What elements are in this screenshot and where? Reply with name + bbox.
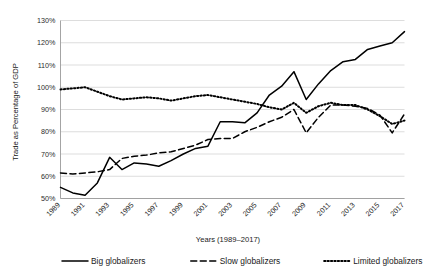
series-line-big-globalizers xyxy=(61,32,405,196)
x-tick-label: 2009 xyxy=(290,201,308,219)
x-tick-label: 2003 xyxy=(216,201,234,219)
y-axis-tick-labels: 50%60%70%80%90%100%110%120%130% xyxy=(37,16,56,203)
x-tick-label: 1995 xyxy=(118,201,136,219)
x-tick-label: 1993 xyxy=(93,201,111,219)
x-tick-label: 1991 xyxy=(69,201,87,219)
y-tick-label: 130% xyxy=(37,16,56,25)
line-chart: 50%60%70%80%90%100%110%120%130% 19891991… xyxy=(0,0,428,278)
legend-label: Limited globalizers xyxy=(353,256,422,266)
y-tick-label: 90% xyxy=(41,105,56,114)
legend-label: Big globalizers xyxy=(91,256,145,266)
gridlines xyxy=(61,21,405,199)
x-tick-label: 2005 xyxy=(241,201,259,219)
x-tick-label: 2015 xyxy=(364,201,382,219)
x-tick-label: 1997 xyxy=(143,201,161,219)
y-tick-label: 60% xyxy=(41,172,56,181)
x-axis-title: Years (1989–2017) xyxy=(196,235,261,244)
x-tick-label: 1989 xyxy=(44,201,62,219)
legend-label: Slow globalizers xyxy=(220,256,281,266)
chart-container: 50%60%70%80%90%100%110%120%130% 19891991… xyxy=(0,0,428,278)
x-axis-tick-labels: 1989199119931995199719992001200320052007… xyxy=(44,201,406,219)
y-tick-label: 120% xyxy=(37,38,56,47)
x-tick-label: 2017 xyxy=(388,201,406,219)
y-tick-label: 70% xyxy=(41,150,56,159)
x-tick-label: 1999 xyxy=(167,201,185,219)
legend: Big globalizersSlow globalizersLimited g… xyxy=(62,256,423,266)
x-tick-label: 2013 xyxy=(339,201,357,219)
x-tick-label: 2001 xyxy=(192,201,210,219)
x-tick-label: 2007 xyxy=(265,201,283,219)
y-tick-label: 100% xyxy=(37,83,56,92)
y-axis-title: Trade as Percentage of GDP xyxy=(11,63,20,161)
x-tick-label: 2011 xyxy=(315,201,332,218)
data-series-group xyxy=(61,32,405,196)
series-line-limited-globalizers xyxy=(61,87,405,124)
series-line-slow-globalizers xyxy=(61,105,405,174)
y-tick-label: 110% xyxy=(38,61,56,70)
y-tick-label: 80% xyxy=(41,127,56,136)
